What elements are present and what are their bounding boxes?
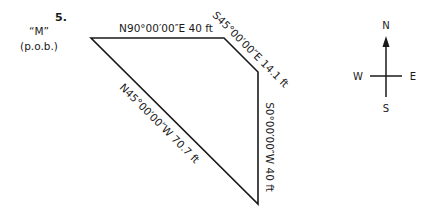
compass-east-label: E xyxy=(410,71,416,82)
point-label: “M” xyxy=(29,25,49,37)
course-label-north-side: N90°00′00″E 40 ft xyxy=(119,22,213,34)
problem-number: 5. xyxy=(55,11,67,24)
compass-north-label: N xyxy=(382,20,389,31)
traverse-diagram: 5. “M” (p.o.b.) N90°00′00″E 40 ft S45°00… xyxy=(0,0,428,215)
traverse-polygon xyxy=(91,38,258,204)
compass-west-label: W xyxy=(353,71,363,82)
compass-south-label: S xyxy=(383,103,389,114)
north-arrow-icon xyxy=(383,36,390,47)
course-label-diagonal-side: N45°00′00″W 70.7 ft xyxy=(118,81,203,166)
point-sublabel: (p.o.b.) xyxy=(20,40,58,52)
compass-rose: N S W E xyxy=(353,20,416,114)
course-label-east-side: S0°00′00″W 40 ft xyxy=(264,102,276,192)
course-label-northeast-side: S45°00′00″E 14.1 ft xyxy=(210,9,291,90)
